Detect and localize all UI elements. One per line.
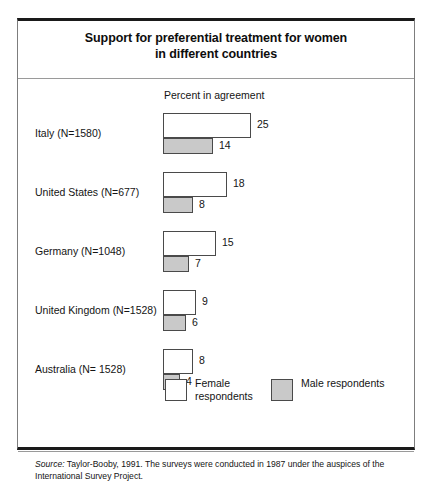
chart-row-united-states: United States (N=677) 18 8 xyxy=(18,168,414,224)
bar-female xyxy=(163,231,216,256)
chart-row-united-kingdom: United Kingdom (N=1528) 9 6 xyxy=(18,286,414,342)
bar-male xyxy=(163,256,189,272)
chart-row-italy: Italy (N=1580) 25 14 xyxy=(18,109,414,165)
category-label: United States (N=677) xyxy=(35,186,139,198)
page-title-line-1: Support for preferential treatment for w… xyxy=(36,30,396,46)
bar-value-female: 18 xyxy=(233,177,245,189)
bar-value-male: 7 xyxy=(195,257,201,269)
bar-male xyxy=(163,197,193,213)
figure-frame: Support for preferential treatment for w… xyxy=(17,18,415,450)
bar-female xyxy=(163,113,251,138)
bar-value-female: 8 xyxy=(199,354,205,366)
source-text: Taylor-Booby, 1991. The surveys were con… xyxy=(35,459,384,481)
bar-value-female: 9 xyxy=(202,295,208,307)
bar-male xyxy=(163,138,213,154)
bar-value-male: 6 xyxy=(192,316,198,328)
bar-male xyxy=(163,315,186,331)
category-label: Australia (N= 1528) xyxy=(35,363,126,375)
source-divider xyxy=(18,451,414,452)
bar-chart: Percent in agreement Italy (N=1580) 25 1… xyxy=(18,79,414,399)
category-label: United Kingdom (N=1528) xyxy=(35,304,157,316)
legend-label-female: Female respondents xyxy=(195,377,279,403)
bar-value-female: 15 xyxy=(222,236,234,248)
category-label: Italy (N=1580) xyxy=(35,127,101,139)
bar-female xyxy=(163,349,193,374)
bar-female xyxy=(163,172,227,197)
chart-legend: Female respondents Male respondents xyxy=(18,377,414,417)
figure-title-block: Support for preferential treatment for w… xyxy=(18,21,414,70)
legend-swatch-male-icon xyxy=(271,379,293,401)
category-label: Germany (N=1048) xyxy=(35,245,125,257)
legend-label-male: Male respondents xyxy=(301,377,385,390)
bar-value-female: 25 xyxy=(257,118,269,130)
bar-value-male: 8 xyxy=(199,198,205,210)
page-title-line-2: in different countries xyxy=(36,46,396,62)
source-label: Source: xyxy=(35,459,65,469)
chart-row-germany: Germany (N=1048) 15 7 xyxy=(18,227,414,283)
axis-caption: Percent in agreement xyxy=(164,89,264,101)
bar-female xyxy=(163,290,196,315)
legend-swatch-female-icon xyxy=(165,379,187,401)
bar-value-male: 14 xyxy=(219,139,231,151)
source-note: Source: Taylor-Booby, 1991. The surveys … xyxy=(35,459,400,482)
